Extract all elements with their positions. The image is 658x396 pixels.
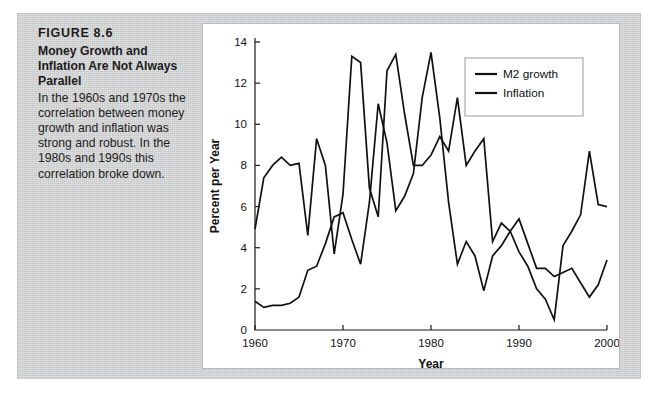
x-tick-label: 1980 bbox=[418, 337, 444, 349]
legend-label: Inflation bbox=[503, 86, 544, 100]
y-tick-label: 8 bbox=[241, 159, 247, 171]
y-tick-label: 12 bbox=[234, 77, 247, 89]
chart-card: 02468101214 19601970198019902000 M2 grow… bbox=[203, 24, 619, 368]
y-axis-ticks: 02468101214 bbox=[234, 36, 260, 336]
y-tick-label: 6 bbox=[241, 201, 247, 213]
chart-legend: M2 growthInflation bbox=[465, 58, 583, 116]
figure-root: FIGURE 8.6 Money Growth and Inflation Ar… bbox=[0, 0, 658, 396]
y-tick-label: 14 bbox=[234, 36, 247, 48]
legend-label: M2 growth bbox=[503, 67, 558, 81]
x-tick-label: 1990 bbox=[506, 337, 532, 349]
figure-title: Money Growth and Inflation Are Not Alway… bbox=[38, 44, 188, 90]
y-tick-label: 4 bbox=[241, 242, 248, 254]
x-tick-label: 2000 bbox=[594, 337, 619, 349]
y-tick-label: 0 bbox=[241, 324, 247, 336]
y-tick-label: 10 bbox=[234, 118, 247, 130]
x-tick-label: 1960 bbox=[242, 337, 268, 349]
x-axis-title: Year bbox=[418, 357, 444, 368]
figure-description: In the 1960s and 1970s the correlation b… bbox=[38, 91, 188, 182]
figure-number: FIGURE 8.6 bbox=[38, 26, 188, 41]
line-chart: 02468101214 19601970198019902000 M2 grow… bbox=[203, 24, 619, 368]
x-tick-label: 1970 bbox=[330, 337, 356, 349]
y-axis-title: Percent per Year bbox=[208, 138, 222, 233]
x-axis-ticks: 19601970198019902000 bbox=[242, 325, 619, 349]
y-tick-label: 2 bbox=[241, 283, 247, 295]
caption-block: FIGURE 8.6 Money Growth and Inflation Ar… bbox=[38, 26, 188, 182]
